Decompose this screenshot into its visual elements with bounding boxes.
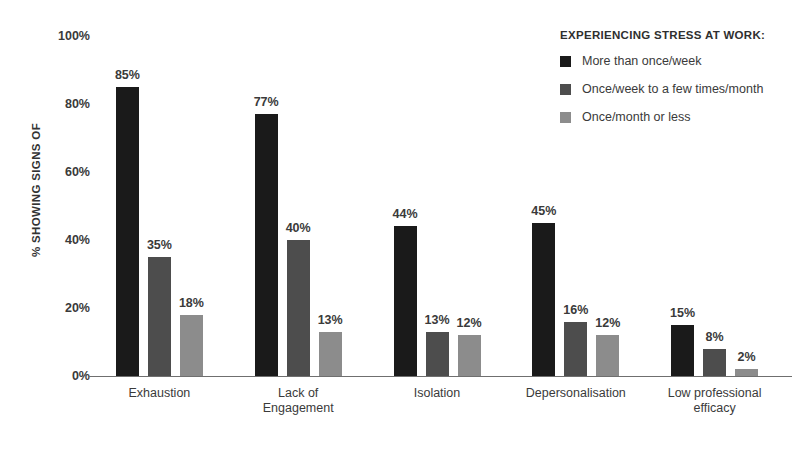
legend-item-label: Once/month or less [582,110,690,124]
y-axis-tick-label: 0% [44,369,90,383]
x-axis-category-label-line: Engagement [215,401,382,416]
bar-value-label: 16% [563,303,588,317]
bar[interactable]: 40% [287,240,310,376]
bar-value-label: 15% [670,306,695,320]
bar[interactable]: 12% [458,335,481,376]
x-axis-line [88,376,792,377]
bar[interactable]: 85% [116,87,139,376]
bar-chart: % SHOWING SIGNS OF 0%20%40%60%80%100% 85… [0,0,801,453]
legend: EXPERIENCING STRESS AT WORK: More than o… [560,29,800,138]
y-axis-tick-label: 20% [44,301,90,315]
bar[interactable]: 44% [394,226,417,376]
bar-group: 44%13%12% [394,36,481,376]
bar-value-label: 77% [254,95,279,109]
y-axis-tick-label: 40% [44,233,90,247]
bar-group: 77%40%13% [255,36,342,376]
legend-item[interactable]: Once/month or less [560,110,800,124]
x-axis-category-label-line: Low professional [631,386,798,401]
legend-title: EXPERIENCING STRESS AT WORK: [560,29,800,41]
bar[interactable]: 12% [596,335,619,376]
legend-items: More than once/weekOnce/week to a few ti… [560,54,800,124]
bar[interactable]: 35% [148,257,171,376]
y-axis-tick-label: 100% [44,29,90,43]
legend-item[interactable]: Once/week to a few times/month [560,82,800,96]
legend-item[interactable]: More than once/week [560,54,800,68]
y-axis-tick-label: 80% [44,97,90,111]
bar-value-label: 8% [706,330,724,344]
bar-group: 85%35%18% [116,36,203,376]
legend-swatch-icon [560,84,571,95]
bar-value-label: 85% [115,68,140,82]
bar[interactable]: 13% [319,332,342,376]
bar-value-label: 45% [531,204,556,218]
x-axis-category-label-line: efficacy [631,401,798,416]
bar[interactable]: 77% [255,114,278,376]
bar[interactable]: 18% [180,315,203,376]
bar-value-label: 44% [392,207,417,221]
y-axis-tick-label: 60% [44,165,90,179]
bar-value-label: 12% [456,316,481,330]
bar[interactable]: 16% [564,322,587,376]
bar[interactable]: 45% [532,223,555,376]
y-axis-title: % SHOWING SIGNS OF [30,60,42,320]
legend-swatch-icon [560,56,571,67]
bar-value-label: 2% [738,350,756,364]
bar[interactable]: 8% [703,349,726,376]
bar-value-label: 12% [595,316,620,330]
bar-value-label: 18% [179,296,204,310]
x-axis-category-label: Low professionalefficacy [631,386,798,416]
legend-item-label: Once/week to a few times/month [582,82,763,96]
bar-value-label: 13% [318,313,343,327]
bar-value-label: 13% [424,313,449,327]
bar[interactable]: 15% [671,325,694,376]
legend-swatch-icon [560,112,571,123]
bar-value-label: 35% [147,238,172,252]
bar-value-label: 40% [286,221,311,235]
legend-item-label: More than once/week [582,54,702,68]
bar[interactable]: 13% [426,332,449,376]
bar[interactable]: 2% [735,369,758,376]
